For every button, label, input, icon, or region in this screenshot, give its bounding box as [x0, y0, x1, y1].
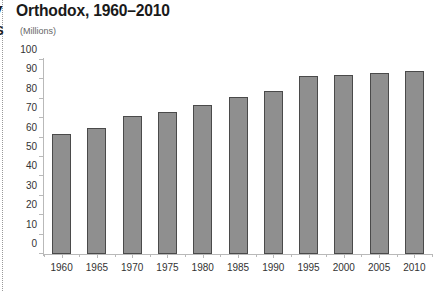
y-axis-tick-label: 60 [26, 121, 37, 132]
x-axis-tick-mark [203, 254, 204, 258]
x-axis-minor-tick [150, 254, 151, 257]
y-axis-tick-label: 70 [26, 102, 37, 113]
x-axis-tick-label: 1965 [86, 262, 108, 273]
y-axis-tick-mark [39, 98, 44, 99]
x-axis-tick-label: 1980 [192, 262, 214, 273]
y-axis-tick-label: 80 [26, 82, 37, 93]
x-axis-tick-label: 2005 [368, 262, 390, 273]
x-axis-tick-mark [273, 254, 274, 258]
title-clipped-glyph-text: y [0, 0, 2, 20]
x-axis-minor-tick [361, 254, 362, 257]
x-axis-minor-tick [115, 254, 116, 257]
x-axis-tick-mark [309, 254, 310, 258]
x-axis-tick-label: 2000 [333, 262, 355, 273]
x-axis-tick-label: 1990 [262, 262, 284, 273]
x-axis-minor-tick [291, 254, 292, 257]
x-axis-minor-tick [397, 254, 398, 257]
bar-1995 [299, 76, 318, 254]
y-axis-tick-label: 10 [26, 218, 37, 229]
x-axis-tick-mark [97, 254, 98, 258]
y-axis-tick-label: 20 [26, 199, 37, 210]
x-axis-minor-tick [79, 254, 80, 257]
y-axis-tick-mark [39, 195, 44, 196]
subtitle-clipped-glyph: S [0, 23, 9, 40]
y-axis-tick-mark [39, 175, 44, 176]
x-axis-tick-label: 2010 [403, 262, 425, 273]
bar-1970 [123, 116, 142, 254]
subtitle-clipped-glyph-text: S [0, 23, 4, 38]
y-axis-tick-label: 30 [26, 179, 37, 190]
x-axis-tick-label: 1960 [51, 262, 73, 273]
chart-subtitle: (Millions) [20, 26, 56, 36]
x-axis-minor-tick [220, 254, 221, 257]
bar-1975 [158, 112, 177, 254]
x-axis-tick-label: 1970 [121, 262, 143, 273]
plot-area: 0102030405060708090100 [44, 60, 432, 254]
y-axis-tick-mark [39, 156, 44, 157]
x-axis-tick-label: 1975 [156, 262, 178, 273]
x-axis-tick-mark [414, 254, 415, 258]
x-axis-tick-mark [379, 254, 380, 258]
bar-1990 [264, 91, 283, 254]
bar-2010 [405, 71, 424, 254]
x-axis-tick-mark [344, 254, 345, 258]
bar-2005 [370, 73, 389, 254]
y-axis-tick-mark [39, 234, 44, 235]
y-axis-tick-label: 40 [26, 160, 37, 171]
x-axis-minor-tick [326, 254, 327, 257]
bar-1985 [229, 97, 248, 254]
chart-header: y Orthodox, 1960–2010 S (Millions) [0, 0, 438, 46]
y-axis-tick-mark [39, 117, 44, 118]
x-axis-tick-mark [167, 254, 168, 258]
bar-1960 [52, 134, 71, 254]
x-axis-tick-mark [62, 254, 63, 258]
y-axis-tick-label: 50 [26, 141, 37, 152]
y-axis-tick-label: 100 [20, 44, 37, 55]
chart-page: y Orthodox, 1960–2010 S (Millions) 01020… [0, 0, 438, 291]
chart-title: Orthodox, 1960–2010 [16, 1, 170, 21]
x-axis-tick-label: 1985 [227, 262, 249, 273]
bar-1980 [193, 105, 212, 254]
y-axis-tick-mark [39, 137, 44, 138]
y-axis-tick-label: 0 [31, 238, 37, 249]
x-axis-minor-tick [432, 254, 433, 257]
bar-1965 [87, 128, 106, 254]
x-axis-minor-tick [185, 254, 186, 257]
title-clipped-glyph: y [0, 0, 11, 22]
x-axis-tick-mark [132, 254, 133, 258]
x-axis-minor-tick [256, 254, 257, 257]
x-axis-tick-mark [238, 254, 239, 258]
y-axis-tick-mark [39, 59, 44, 60]
x-axis-tick-label: 1995 [297, 262, 319, 273]
bar-2000 [334, 75, 353, 254]
bar-chart: 0102030405060708090100 19601965197019751… [0, 46, 438, 291]
y-axis-tick-mark [39, 78, 44, 79]
y-axis-tick-label: 90 [26, 63, 37, 74]
y-axis-tick-mark [39, 214, 44, 215]
x-axis-minor-tick [44, 254, 45, 257]
